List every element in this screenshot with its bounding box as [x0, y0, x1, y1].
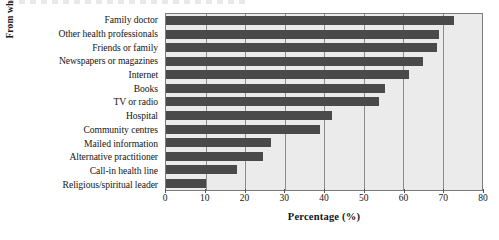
- category-label: Religious/spiritual leader: [36, 177, 162, 191]
- bar: [166, 43, 437, 52]
- bar-row: [166, 28, 482, 42]
- bar: [166, 16, 454, 25]
- cropped-text-remnant: [8, 0, 248, 4]
- bar-row: [166, 176, 482, 190]
- bar: [166, 111, 332, 120]
- bar-chart-figure: From where health-related information wa…: [0, 0, 499, 240]
- bar: [166, 97, 379, 106]
- bar-row: [166, 41, 482, 55]
- bar-row: [166, 122, 482, 136]
- bar: [166, 152, 263, 161]
- x-axis-tick-label: 70: [439, 193, 449, 203]
- x-axis-tick-label: 60: [399, 193, 409, 203]
- x-axis-tick-label: 50: [359, 193, 369, 203]
- bar-row: [166, 163, 482, 177]
- bar: [166, 30, 439, 39]
- category-label: Family doctor: [36, 13, 162, 27]
- category-label: Alternative practitioner: [36, 150, 162, 164]
- x-axis-tick-label: 30: [280, 193, 290, 203]
- plot-area: [165, 13, 483, 191]
- category-label: Books: [36, 81, 162, 95]
- x-axis-title: Percentage (%): [165, 211, 483, 222]
- x-axis-tick-labels: 01020304050607080: [165, 193, 483, 207]
- x-axis-tick-label: 10: [200, 193, 210, 203]
- category-label: Newspapers or magazines: [36, 54, 162, 68]
- x-axis-tick-label: 20: [240, 193, 250, 203]
- bar-row: [166, 136, 482, 150]
- y-axis-title: From where health-related information wa…: [0, 0, 32, 45]
- category-label: Community centres: [36, 123, 162, 137]
- bar-row: [166, 68, 482, 82]
- bar: [166, 165, 237, 174]
- x-axis-tick-label: 0: [163, 193, 168, 203]
- category-label: Mailed information: [36, 136, 162, 150]
- bar-row: [166, 95, 482, 109]
- category-label: Call-in health line: [36, 164, 162, 178]
- bar: [166, 138, 271, 147]
- bar-row: [166, 82, 482, 96]
- bar: [166, 179, 206, 188]
- bar-row: [166, 55, 482, 69]
- bars-layer: [166, 14, 482, 190]
- category-label: Internet: [36, 68, 162, 82]
- category-label: Hospital: [36, 109, 162, 123]
- bar-row: [166, 109, 482, 123]
- bar: [166, 84, 385, 93]
- bar-row: [166, 14, 482, 28]
- x-axis-tick-label: 40: [319, 193, 329, 203]
- bar: [166, 70, 409, 79]
- category-label: Other health professionals: [36, 27, 162, 41]
- bar-row: [166, 149, 482, 163]
- category-label: Friends or family: [36, 40, 162, 54]
- bar: [166, 125, 320, 134]
- x-axis-tick-label: 80: [478, 193, 488, 203]
- bar: [166, 57, 423, 66]
- category-axis-labels: Family doctorOther health professionalsF…: [36, 13, 162, 191]
- category-label: TV or radio: [36, 95, 162, 109]
